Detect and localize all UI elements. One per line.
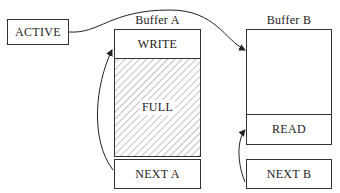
next-a-box: NEXT A	[114, 159, 201, 189]
write-label: WRITE	[138, 37, 178, 52]
next-b-arrow	[239, 130, 245, 182]
buffer-b-title: Buffer B	[246, 13, 332, 28]
buffer-b: READ	[246, 29, 332, 145]
read-label: READ	[272, 122, 306, 137]
buffer-a-full-section: FULL	[115, 59, 200, 156]
buffer-b-read-section: READ	[247, 114, 331, 144]
buffer-a-title: Buffer A	[114, 13, 201, 28]
buffer-a-write-section: WRITE	[115, 30, 200, 59]
active-label: ACTIVE	[15, 25, 61, 40]
next-a-arrow	[97, 50, 113, 170]
next-a-label: NEXT A	[135, 167, 180, 182]
next-b-box: NEXT B	[246, 159, 332, 189]
next-b-label: NEXT B	[267, 167, 312, 182]
full-label: FULL	[140, 100, 175, 115]
active-pointer-box: ACTIVE	[7, 19, 69, 45]
buffer-a: WRITE FULL	[114, 29, 201, 157]
